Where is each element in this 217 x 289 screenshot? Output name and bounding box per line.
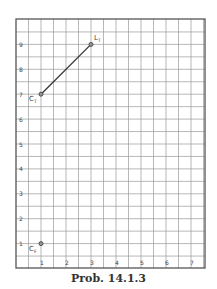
x-tick-label: 6	[165, 259, 169, 266]
point-marker	[89, 42, 93, 46]
y-tick-label: 9	[19, 41, 23, 48]
x-tick-label: 4	[115, 259, 119, 266]
point-label: LT	[94, 34, 101, 43]
y-tick-label: 4	[19, 165, 23, 172]
y-tick-label: 8	[19, 66, 23, 73]
x-tick-label: 1	[40, 259, 44, 266]
grid-lines	[16, 19, 205, 268]
x-tick-label: 3	[90, 259, 94, 266]
y-tick-labels: 123456789	[19, 41, 23, 247]
y-tick-label: 1	[19, 240, 23, 247]
point-marker	[39, 242, 43, 246]
y-tick-label: 5	[19, 141, 23, 148]
y-tick-label: 3	[19, 190, 23, 197]
plot-frame	[16, 19, 205, 268]
x-tick-label: 5	[140, 259, 144, 266]
chart-plot: 1234567 123456789 CFCTLT	[0, 0, 217, 270]
x-tick-label: 7	[190, 259, 194, 266]
y-tick-label: 6	[19, 116, 23, 123]
y-tick-label: 2	[19, 215, 23, 222]
point-label: CF	[29, 245, 37, 254]
x-tick-labels: 1234567	[40, 259, 194, 266]
x-tick-label: 2	[65, 259, 69, 266]
y-tick-label: 7	[19, 91, 23, 98]
point-label: CT	[29, 95, 37, 104]
figure-caption: Prob. 14.1.3	[0, 272, 217, 285]
point-marker	[39, 92, 43, 96]
